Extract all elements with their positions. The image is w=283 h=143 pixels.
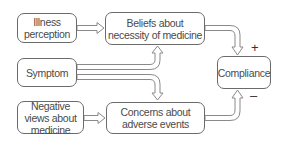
node-concerns-adverse: Concerns about adverse events — [106, 102, 205, 134]
node-negative-views-label: Negative views about medicine — [18, 100, 83, 136]
arrow-concerns-to-compliance — [205, 90, 243, 121]
node-illness-perception-label: Illness perception — [18, 16, 76, 40]
node-compliance-label: Compliance — [218, 67, 270, 79]
arrow-beliefs-to-compliance — [205, 26, 243, 56]
node-illness-perception: Illness perception — [17, 13, 77, 43]
node-beliefs-necessity: Beliefs about necessity of medicine — [105, 12, 205, 45]
arrow-symptom-to-concerns — [77, 75, 163, 101]
arrow-symptom-to-beliefs — [77, 46, 163, 70]
node-symptom-label: Symptom — [26, 67, 68, 79]
arrow-negative-to-concerns — [84, 113, 105, 124]
node-compliance: Compliance — [217, 56, 271, 89]
positive-sign: + — [251, 40, 259, 55]
node-symptom: Symptom — [17, 58, 77, 87]
node-concerns-adverse-label: Concerns about adverse events — [107, 106, 204, 130]
negative-sign: – — [250, 88, 257, 103]
node-beliefs-necessity-label: Beliefs about necessity of medicine — [106, 17, 204, 41]
node-negative-views: Negative views about medicine — [17, 101, 84, 134]
arrow-illness-to-beliefs — [77, 23, 104, 34]
